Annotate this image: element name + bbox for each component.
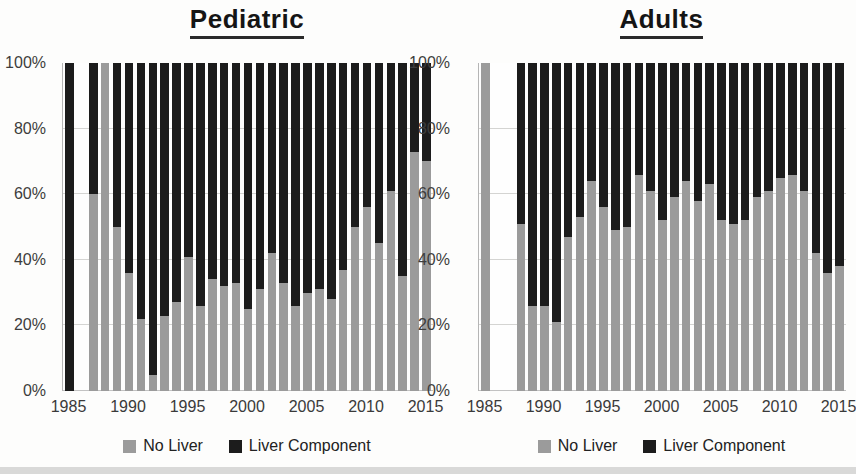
- pediatric-bar-1999: [232, 63, 241, 391]
- adults-y-tick-80%: 80%: [418, 120, 450, 138]
- pediatric-bar-2010-no-liver: [363, 207, 372, 391]
- pediatric-bar-1989: [113, 63, 122, 391]
- no-liver-label: No Liver: [143, 437, 203, 455]
- pediatric-y-tick-80%: 80%: [14, 120, 46, 138]
- pediatric-y-tick-40%: 40%: [14, 251, 46, 269]
- adults-bar-2005: [717, 63, 726, 391]
- adults-legend-liver-component: Liver Component: [643, 437, 785, 455]
- pediatric-bar-1987-no-liver: [89, 194, 98, 391]
- adults-x-tick-1995: 1995: [585, 398, 621, 416]
- liver-component-swatch-icon: [229, 440, 242, 453]
- adults-bar-1997: [623, 63, 632, 391]
- pediatric-bar-1995: [184, 63, 193, 391]
- pediatric-bar-2009: [351, 63, 360, 391]
- pediatric-bar-1994-no-liver: [172, 302, 181, 391]
- no-liver-label: No Liver: [558, 437, 618, 455]
- pediatric-x-tick-1990: 1990: [110, 398, 146, 416]
- liver-component-swatch-icon: [643, 440, 656, 453]
- adults-bar-2012: [800, 63, 809, 391]
- pediatric-bar-1991: [137, 63, 146, 391]
- pediatric-bar-2002-no-liver: [268, 253, 277, 391]
- adults-bar-2004-no-liver: [705, 184, 714, 391]
- pediatric-bar-1987: [89, 63, 98, 391]
- pediatric-bar-1995-no-liver: [184, 257, 193, 391]
- pediatric-bar-2004: [291, 63, 300, 391]
- pediatric-bar-2013-no-liver: [398, 276, 407, 391]
- adults-bar-1994-no-liver: [587, 181, 596, 391]
- adults-bar-2005-no-liver: [717, 220, 726, 391]
- liver-component-label: Liver Component: [663, 437, 785, 455]
- pediatric-bar-2010: [363, 63, 372, 391]
- adults-bar-2001-no-liver: [670, 197, 679, 391]
- pediatric-bar-1997-no-liver: [208, 279, 217, 391]
- adults-bar-2009: [764, 63, 773, 391]
- adults-x-tick-2005: 2005: [703, 398, 739, 416]
- adults-bar-2015: [835, 63, 844, 391]
- pediatric-y-tick-60%: 60%: [14, 185, 46, 203]
- adults-bar-1994: [587, 63, 596, 391]
- adults-bar-2008: [753, 63, 762, 391]
- no-liver-swatch-icon: [538, 440, 551, 453]
- pediatric-y-tick-20%: 20%: [14, 316, 46, 334]
- pediatric-bar-1988-no-liver: [101, 63, 110, 391]
- pediatric-x-tick-2010: 2010: [348, 398, 384, 416]
- adults-bar-1990-no-liver: [540, 306, 549, 391]
- adults-bar-1988-no-liver: [517, 224, 526, 391]
- pediatric-x-tick-2015: 2015: [408, 398, 444, 416]
- pediatric-bar-1991-no-liver: [137, 319, 146, 391]
- pediatric-bar-2007-no-liver: [327, 299, 336, 391]
- adults-bar-2014-no-liver: [823, 273, 832, 391]
- pediatric-bar-2001: [256, 63, 265, 391]
- pediatric-x-tick-1995: 1995: [170, 398, 206, 416]
- pediatric-bar-2003-no-liver: [279, 283, 288, 391]
- adults-plot-area: [478, 63, 846, 391]
- adults-bar-2000-no-liver: [658, 220, 667, 391]
- pediatric-bar-2008-no-liver: [339, 270, 348, 391]
- adults-bar-1995-no-liver: [599, 207, 608, 391]
- pediatric-bar-1997: [208, 63, 217, 391]
- adults-bar-2013-no-liver: [812, 253, 821, 391]
- pediatric-bar-1990-no-liver: [125, 273, 134, 391]
- adults-bar-2003-no-liver: [694, 201, 703, 391]
- pediatric-legend-liver-component: Liver Component: [229, 437, 371, 455]
- adults-bar-1990: [540, 63, 549, 391]
- pediatric-legend-no-liver: No Liver: [123, 437, 203, 455]
- pediatric-bar-1994: [172, 63, 181, 391]
- pediatric-bar-1993-no-liver: [160, 316, 169, 391]
- pediatric-bar-1992: [149, 63, 158, 391]
- pediatric-bar-1992-liver-component: [149, 63, 158, 391]
- pediatric-bar-2004-no-liver: [291, 306, 300, 391]
- adults-bar-1991: [552, 63, 561, 391]
- pediatric-y-tick-0%: 0%: [23, 382, 46, 400]
- adults-bar-2006: [729, 63, 738, 391]
- adults-bar-2001: [670, 63, 679, 391]
- pediatric-bar-2007: [327, 63, 336, 391]
- adults-bar-1999-no-liver: [646, 191, 655, 391]
- adults-y-tick-60%: 60%: [418, 185, 450, 203]
- adults-bar-2004: [705, 63, 714, 391]
- pediatric-bar-2009-no-liver: [351, 227, 360, 391]
- scan-edge: [0, 467, 856, 474]
- adults-bar-1998: [635, 63, 644, 391]
- adults-bar-1992-no-liver: [564, 237, 573, 391]
- adults-bar-2007-no-liver: [741, 220, 750, 391]
- pediatric-y-tick-100%: 100%: [5, 54, 46, 72]
- adults-bar-1997-no-liver: [623, 227, 632, 391]
- adults-bar-2007: [741, 63, 750, 391]
- adults-bar-1985-no-liver: [481, 63, 490, 391]
- adults-x-tick-1985: 1985: [467, 398, 503, 416]
- adults-bar-1989: [528, 63, 537, 391]
- pediatric-title: Pediatric: [62, 4, 432, 39]
- adults-bar-1996: [611, 63, 620, 391]
- pediatric-bar-1985-liver-component: [65, 63, 74, 391]
- adults-y-tick-20%: 20%: [418, 316, 450, 334]
- pediatric-bar-2002: [268, 63, 277, 391]
- pediatric-bar-2005: [303, 63, 312, 391]
- pediatric-bar-2006-no-liver: [315, 289, 324, 391]
- adults-bar-1989-no-liver: [528, 306, 537, 391]
- adults-bar-1998-no-liver: [635, 175, 644, 391]
- adults-y-tick-40%: 40%: [418, 251, 450, 269]
- adults-legend-no-liver: No Liver: [538, 437, 618, 455]
- adults-bar-1999: [646, 63, 655, 391]
- pediatric-bar-2014: [410, 63, 419, 391]
